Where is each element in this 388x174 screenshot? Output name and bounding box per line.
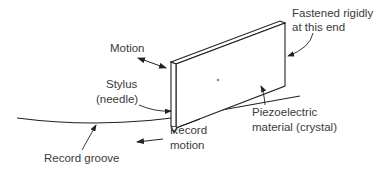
record-groove-leader [82,125,96,150]
fastened-label-2: at this end [292,20,345,34]
record-motion-arrow [137,139,163,142]
motion-arrow [138,58,166,68]
stylus-label: Stylus [106,77,137,91]
record-motion-label-2: motion [170,138,205,152]
piezo-label: Piezoelectric [252,105,317,119]
piezo-label-2: material (crystal) [252,120,337,134]
needle-label: (needle) [96,92,138,106]
record-groove-label: Record groove [44,151,119,165]
fastened-leader [288,33,313,56]
motion-label: Motion [110,41,145,55]
stylus-leader [139,105,171,111]
record-motion-label: Record [170,123,207,137]
fastened-label: Fastened rigidly [292,6,373,20]
center-mark [217,79,219,81]
